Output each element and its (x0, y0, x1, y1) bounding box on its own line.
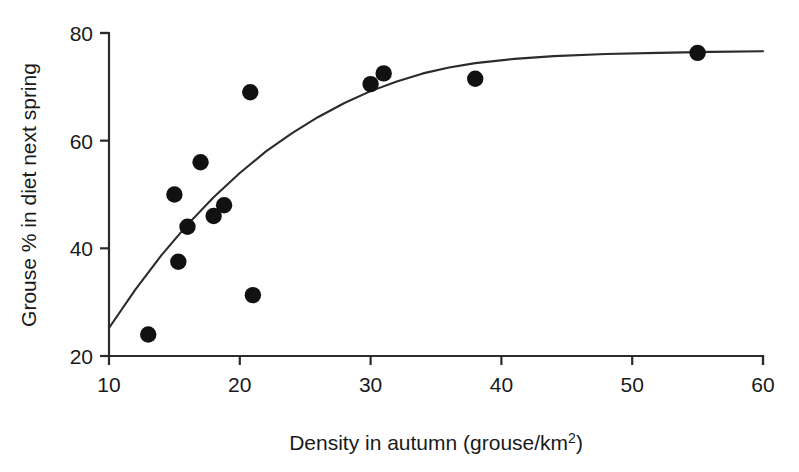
data-point (179, 219, 195, 235)
x-tick-label: 10 (97, 373, 120, 396)
x-tick-group: 102030405060 (97, 356, 774, 396)
data-point-group (140, 45, 706, 343)
data-point (140, 326, 156, 342)
y-tick-label: 40 (70, 237, 93, 260)
x-tick-label: 20 (228, 373, 251, 396)
x-tick-label: 60 (751, 373, 774, 396)
data-point (166, 186, 182, 202)
data-point (170, 254, 186, 270)
chart-figure: 20406080 102030405060 Grouse % in diet n… (0, 0, 799, 472)
scatter-plot-svg: 20406080 102030405060 Grouse % in diet n… (0, 0, 799, 472)
x-axis-title-tail: ) (576, 431, 583, 454)
data-point (242, 84, 258, 100)
y-axis-title: Grouse % in diet next spring (17, 63, 40, 327)
data-point (192, 154, 208, 170)
data-point (375, 65, 391, 81)
fit-curve (109, 51, 763, 328)
x-axis-title: Density in autumn (grouse/km2) (289, 430, 583, 454)
x-axis-title-main: Density in autumn (grouse/km (289, 431, 568, 454)
data-point (216, 197, 232, 213)
data-point (689, 45, 705, 61)
y-tick-group: 20406080 (70, 22, 109, 368)
data-point (245, 287, 261, 303)
y-tick-label: 80 (70, 22, 93, 45)
x-tick-label: 30 (359, 373, 382, 396)
y-tick-label: 20 (70, 345, 93, 368)
y-tick-label: 60 (70, 130, 93, 153)
data-point (467, 71, 483, 87)
x-tick-label: 50 (621, 373, 644, 396)
data-point (362, 76, 378, 92)
x-tick-label: 40 (490, 373, 513, 396)
x-axis-title-superscript: 2 (568, 430, 576, 446)
